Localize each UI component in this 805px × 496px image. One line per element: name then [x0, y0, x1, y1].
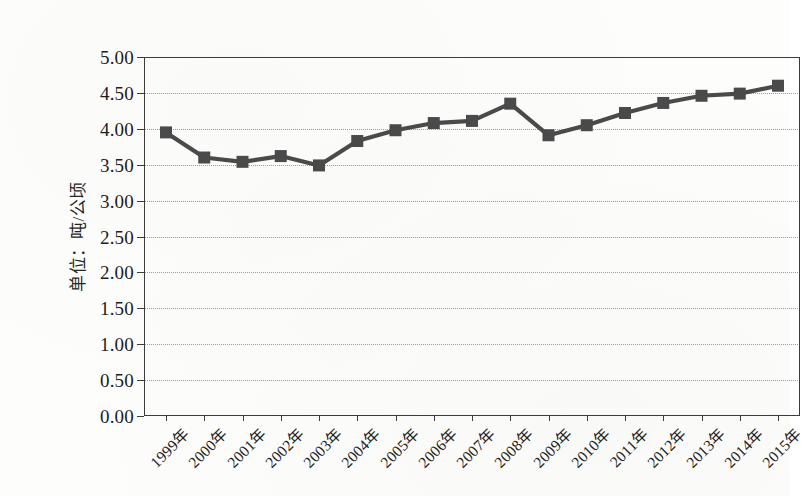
x-axis-tick-mark — [510, 416, 511, 421]
y-axis-tick-label: 5.00 — [82, 48, 134, 67]
x-axis-tick-label: 2015年 — [756, 422, 805, 471]
y-axis-tick-mark — [137, 308, 144, 309]
data-point-marker — [313, 159, 325, 171]
x-axis-tick-mark — [663, 416, 664, 421]
y-axis-tick-labels: 0.000.501.001.502.002.503.003.504.004.50… — [78, 16, 134, 496]
y-axis-tick-label: 0.50 — [82, 371, 134, 390]
x-axis-tick-label: 2009年 — [527, 422, 576, 471]
data-point-marker — [428, 117, 440, 129]
data-point-marker — [390, 124, 402, 136]
y-axis-tick-label: 4.00 — [82, 119, 134, 138]
x-axis-tick-mark — [204, 416, 205, 421]
data-point-marker — [696, 90, 708, 102]
x-axis-tick-label: 2014年 — [718, 422, 767, 471]
x-axis-tick-label: 2006年 — [412, 422, 461, 471]
x-axis-tick-mark — [243, 416, 244, 421]
x-axis-tick-mark — [778, 416, 779, 421]
x-axis-tick-label: 2005年 — [374, 422, 423, 471]
data-point-marker — [275, 150, 287, 162]
data-point-marker — [198, 152, 210, 164]
y-axis-tick-mark — [137, 344, 144, 345]
x-axis-tick-mark — [625, 416, 626, 421]
y-axis-tick-label: 2.00 — [82, 263, 134, 282]
x-axis-tick-labels: 1999年2000年2001年2002年2003年2004年2005年2006年… — [144, 416, 800, 496]
data-series-line — [144, 57, 800, 416]
x-axis-tick-mark — [357, 416, 358, 421]
y-axis-tick-label: 3.50 — [82, 155, 134, 174]
y-axis-tick-mark — [137, 201, 144, 202]
y-axis-tick-mark — [137, 93, 144, 94]
x-axis-tick-label: 1999年 — [144, 422, 193, 471]
x-axis-tick-mark — [396, 416, 397, 421]
y-axis-tick-label: 3.00 — [82, 191, 134, 210]
y-axis-tick-mark — [137, 165, 144, 166]
line-chart: 单位：吨/公顷 0.000.501.001.502.002.503.003.50… — [40, 16, 750, 480]
x-axis-tick-mark — [472, 416, 473, 421]
x-axis-tick-mark — [740, 416, 741, 421]
x-axis-tick-mark — [702, 416, 703, 421]
x-axis-tick-mark — [281, 416, 282, 421]
x-axis-tick-label: 2008年 — [488, 422, 537, 471]
data-point-marker — [657, 97, 669, 109]
x-axis-tick-label: 2012年 — [641, 422, 690, 471]
data-point-marker — [351, 135, 363, 147]
x-axis-tick-label: 2003年 — [297, 422, 346, 471]
y-axis-tick-label: 1.50 — [82, 299, 134, 318]
y-axis-tick-label: 0.00 — [82, 407, 134, 426]
x-axis-tick-label: 2007年 — [450, 422, 499, 471]
data-point-marker — [619, 107, 631, 119]
data-point-marker — [504, 98, 516, 110]
x-axis-tick-mark — [587, 416, 588, 421]
y-axis-tick-mark — [137, 416, 144, 417]
x-axis-tick-mark — [549, 416, 550, 421]
plot-area — [144, 57, 800, 416]
x-axis-tick-label: 2001年 — [221, 422, 270, 471]
y-axis-tick-mark — [137, 57, 144, 58]
data-point-marker — [466, 115, 478, 127]
x-axis-tick-mark — [319, 416, 320, 421]
x-axis-tick-label: 2010年 — [565, 422, 614, 471]
data-point-marker — [581, 119, 593, 131]
y-axis-tick-label: 2.50 — [82, 227, 134, 246]
y-axis-tick-mark — [137, 129, 144, 130]
y-axis-tick-label: 4.50 — [82, 83, 134, 102]
x-axis-tick-label: 2002年 — [259, 422, 308, 471]
data-point-marker — [237, 156, 249, 168]
data-point-marker — [734, 88, 746, 100]
x-axis-tick-label: 2004年 — [335, 422, 384, 471]
y-axis-tick-mark — [137, 237, 144, 238]
y-axis-tick-mark — [137, 272, 144, 273]
y-axis-tick-mark — [137, 380, 144, 381]
data-point-marker — [543, 129, 555, 141]
x-axis-tick-label: 2011年 — [603, 422, 652, 471]
x-axis-tick-mark — [434, 416, 435, 421]
x-axis-tick-label: 2000年 — [182, 422, 231, 471]
x-axis-tick-label: 2013年 — [680, 422, 729, 471]
y-axis-tick-label: 1.00 — [82, 335, 134, 354]
data-point-marker — [772, 80, 784, 92]
x-axis-tick-mark — [166, 416, 167, 421]
data-point-marker — [160, 126, 172, 138]
